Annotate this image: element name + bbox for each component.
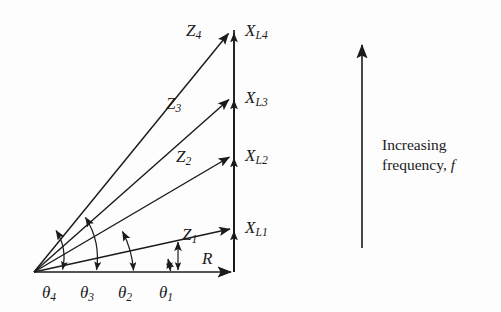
impedance-subscript-z1: 1 [191,233,197,246]
angle-label-theta1: θ1 [159,284,173,304]
increasing-frequency-line1: Increasing [382,135,455,155]
angle-subscript-theta4: 4 [50,291,56,304]
reactance-subscript-xl4: L4 [255,29,268,42]
impedance-label-z4: Z4 [186,22,201,42]
increasing-frequency-line2: frequency, f [382,155,455,175]
resistance-symbol: R [202,249,212,268]
impedance-label-z3: Z3 [166,95,181,115]
reactance-label-xl3: XL3 [245,89,268,109]
reactance-label-xl1: XL1 [245,219,268,239]
angle-label-theta2: θ2 [118,284,132,304]
frequency-comma: , [443,156,447,173]
reactance-symbol-xl1: X [245,218,255,237]
increasing-frequency-caption: Increasing frequency, f [382,135,455,175]
angle-label-theta3: θ3 [80,284,94,304]
frequency-symbol-f: f [451,156,455,173]
phasor-diagram-figure: Z4 Z3 Z2 Z1 XL4 XL3 XL2 XL1 R θ4 θ3 θ2 θ… [0,0,501,312]
angle-subscript-theta2: 2 [126,291,132,304]
impedance-subscript-z2: 2 [185,155,191,168]
angle-subscript-theta1: 1 [167,291,173,304]
impedance-label-z1: Z1 [182,226,197,246]
impedance-subscript-z4: 4 [195,29,201,42]
reactance-symbol-xl3: X [245,88,255,107]
reactance-subscript-xl1: L1 [255,226,268,239]
reactance-symbol-xl2: X [245,146,255,165]
reactance-subscript-xl2: L2 [255,154,268,167]
reactance-label-xl2: XL2 [245,147,268,167]
impedance-label-z2: Z2 [176,148,191,168]
angle-arc-theta1 [168,259,171,271]
reactance-symbol-xl4: X [245,21,255,40]
angle-subscript-theta3: 3 [88,291,94,304]
resistance-label-r: R [202,250,212,267]
reactance-subscript-xl3: L3 [255,96,268,109]
frequency-word: frequency [382,156,443,173]
reactance-label-xl4: XL4 [245,22,268,42]
angle-label-theta4: θ4 [42,284,56,304]
impedance-subscript-z3: 3 [175,102,181,115]
